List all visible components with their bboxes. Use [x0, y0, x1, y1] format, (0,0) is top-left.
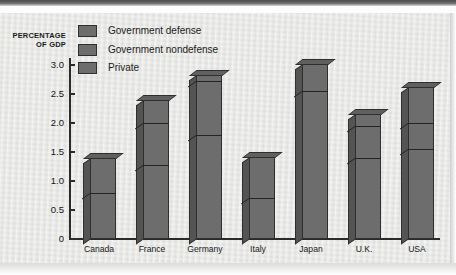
legend-swatch-government-defense: [78, 25, 97, 37]
y-tick-mark: [69, 151, 75, 153]
bar-segment-divider: [90, 193, 116, 194]
bar-segment-divider: [249, 198, 275, 199]
legend-swatch-private: [78, 62, 97, 74]
bar-top-face: [83, 153, 124, 159]
x-label-usa: USA: [385, 244, 449, 254]
y-tick-mark: [69, 180, 75, 182]
bar-segment-divider: [408, 149, 434, 150]
legend-label-government-nondefense: Government nondefense: [108, 44, 218, 55]
bar-front-face: [90, 158, 116, 239]
bar-top-face: [136, 95, 177, 101]
y-tick-mark: [69, 122, 75, 124]
y-axis-title-line2: OF GDP: [8, 40, 66, 49]
y-axis-title: PERCENTAGE OF GDP: [8, 31, 66, 49]
bar-chart: PERCENTAGE OF GDP 00.51.01.52.02.53.0 Ca…: [0, 0, 456, 275]
y-tick-label: 2.5: [22, 88, 64, 99]
bar-segment-divider: [355, 126, 381, 127]
legend-label-government-defense: Government defense: [108, 25, 201, 36]
legend-label-private: Private: [108, 62, 139, 73]
chart-page: PERCENTAGE OF GDP 00.51.01.52.02.53.0 Ca…: [0, 0, 456, 275]
bar-germany: [189, 70, 222, 239]
bar-segment-divider: [143, 165, 169, 166]
bar-front-face: [143, 100, 169, 239]
bar-france: [136, 95, 169, 239]
y-tick-mark: [69, 64, 75, 66]
y-axis-title-line1: PERCENTAGE: [12, 31, 66, 40]
y-axis-line: [69, 58, 71, 240]
legend-swatch-government-nondefense: [78, 44, 97, 56]
bar-front-face: [408, 87, 434, 239]
y-tick-label: 1.5: [22, 146, 64, 157]
bar-japan: [295, 59, 328, 239]
bar-top-face: [348, 109, 389, 115]
bar-italy: [242, 152, 275, 239]
bar-segment-divider: [355, 158, 381, 159]
bar-top-face: [242, 152, 283, 158]
bar-uk: [348, 109, 381, 239]
y-tick-label: 3.0: [22, 59, 64, 70]
bar-segment-divider: [196, 135, 222, 136]
bar-front-face: [196, 75, 222, 239]
y-tick-label: 0.5: [22, 204, 64, 215]
y-tick-label: 2.0: [22, 117, 64, 128]
bar-top-face: [401, 82, 442, 88]
bar-front-face: [355, 114, 381, 239]
y-tick-label: 1.0: [22, 175, 64, 186]
bar-segment-divider: [143, 123, 169, 124]
y-tick-mark: [69, 238, 75, 240]
bar-segment-divider: [408, 123, 434, 124]
bar-top-face: [295, 59, 336, 65]
bar-segment-divider: [302, 91, 328, 92]
bar-top-face: [189, 70, 230, 76]
bar-segment-divider: [196, 81, 222, 82]
y-tick-mark: [69, 93, 75, 95]
bar-usa: [401, 82, 434, 239]
y-tick-label: 0: [22, 233, 64, 244]
bar-canada: [83, 153, 116, 239]
y-tick-mark: [69, 209, 75, 211]
